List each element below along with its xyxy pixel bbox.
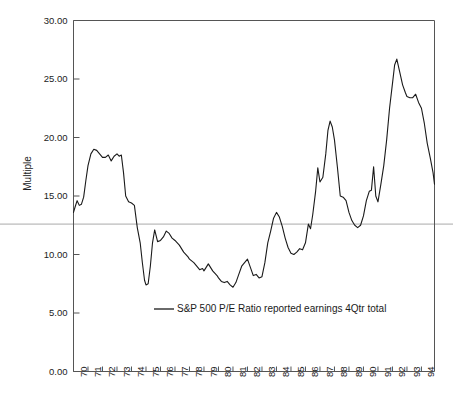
x-tick-label: 71 [92, 366, 103, 377]
x-tick-label: 75 [150, 366, 161, 377]
y-tick-label: 5.00 [26, 307, 68, 318]
x-tick-label: 86 [309, 366, 320, 377]
x-tick-label: 91 [382, 366, 393, 377]
x-tick-label: 70 [78, 366, 89, 377]
x-tick-label: 94 [425, 366, 436, 377]
x-tick-label: 83 [266, 366, 277, 377]
chart-container: Multiple 0.005.0010.0015.0020.0025.0030.… [0, 0, 453, 407]
series-line-sp500-pe [74, 59, 435, 287]
y-tick-label: 0.00 [26, 366, 68, 377]
x-tick-label: 77 [179, 366, 190, 377]
legend-entry-label: S&P 500 P/E Ratio reported earnings 4Qtr… [177, 303, 386, 314]
pe-ratio-line-chart [0, 0, 453, 407]
x-tick-label: 72 [106, 366, 117, 377]
x-tick-label: 76 [164, 366, 175, 377]
y-axis-title: Multiple [22, 134, 33, 214]
x-tick-label: 81 [237, 366, 248, 377]
x-tick-label: 88 [338, 366, 349, 377]
x-tick-label: 92 [396, 366, 407, 377]
x-tick-label: 73 [121, 366, 132, 377]
x-tick-label: 78 [193, 366, 204, 377]
y-tick-label: 25.00 [26, 73, 68, 84]
y-axis-ticks [74, 21, 80, 372]
x-tick-label: 90 [367, 366, 378, 377]
y-tick-label: 30.00 [26, 15, 68, 26]
x-tick-label: 80 [222, 366, 233, 377]
x-tick-label: 93 [411, 366, 422, 377]
x-tick-label: 82 [251, 366, 262, 377]
y-tick-label: 10.00 [26, 249, 68, 260]
x-tick-label: 84 [280, 366, 291, 377]
x-tick-label: 89 [353, 366, 364, 377]
x-tick-label: 74 [135, 366, 146, 377]
x-tick-label: 79 [208, 366, 219, 377]
y-tick-label: 15.00 [26, 190, 68, 201]
y-tick-label: 20.00 [26, 132, 68, 143]
plot-frame [74, 21, 435, 372]
x-tick-label: 85 [295, 366, 306, 377]
x-tick-label: 87 [324, 366, 335, 377]
